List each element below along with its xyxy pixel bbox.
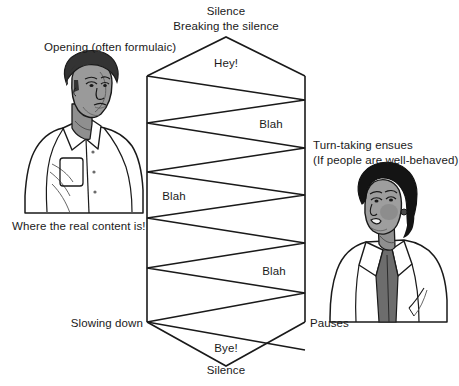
label-silence-bottom: Silence	[207, 363, 245, 377]
woman-illustration	[330, 162, 447, 322]
label-silence-top: Silence	[207, 4, 245, 18]
label-blah-2: Blah	[162, 189, 185, 203]
label-turn-taking-line1: Turn-taking ensues	[313, 138, 413, 153]
label-where-real-content: Where the real content is!	[12, 219, 146, 233]
label-opening: Opening (often formulaic)	[44, 40, 176, 54]
label-hey: Hey!	[214, 56, 238, 70]
label-slowing-down: Slowing down	[71, 316, 143, 330]
label-bye: Bye!	[214, 341, 237, 355]
label-breaking-the-silence: Breaking the silence	[173, 19, 279, 33]
label-turn-taking-line2: (If people are well-behaved)	[313, 153, 458, 168]
label-blah-3: Blah	[262, 264, 285, 278]
figure-canvas: Silence Breaking the silence Opening (of…	[0, 0, 459, 386]
label-blah-1: Blah	[259, 117, 282, 131]
man-illustration	[25, 51, 143, 214]
label-pauses: Pauses	[310, 316, 349, 330]
